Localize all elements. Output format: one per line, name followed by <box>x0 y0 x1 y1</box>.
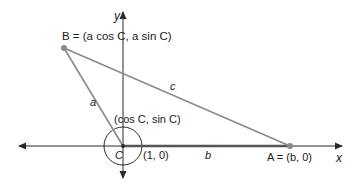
side-a-label: a <box>90 97 96 108</box>
side-c <box>64 48 290 146</box>
unit-point-label: (cos C, sin C) <box>114 114 181 125</box>
side-c-label: c <box>170 81 176 92</box>
point-b <box>61 45 67 51</box>
point-a <box>287 143 293 149</box>
point-c-label: C <box>115 150 123 161</box>
side-b-label: b <box>205 150 211 161</box>
point-b-label: B = (a cos C, a sin C) <box>62 31 172 43</box>
point-c <box>121 144 125 148</box>
y-axis-label: y <box>114 10 120 22</box>
x-axis-label: x <box>336 152 342 164</box>
point-b-label-text: B = (a cos C, a sin C) <box>62 30 172 42</box>
law-of-cosines-diagram: y x B = (a cos C, a sin C) c a (cos C, s… <box>0 0 356 185</box>
one-zero-label: (1, 0) <box>143 150 169 161</box>
point-a-label: A = (b, 0) <box>267 152 312 163</box>
